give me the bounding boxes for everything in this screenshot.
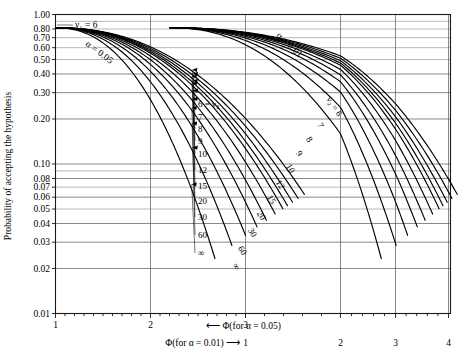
curve-label-alpha005: 15 bbox=[198, 181, 208, 191]
alpha005-curve-v2-9 bbox=[56, 28, 288, 206]
curve-label-alpha001: 30 bbox=[246, 226, 260, 239]
annotation-nu1: ν₁ = 6 bbox=[75, 20, 98, 30]
curve-label-alpha005: 20 bbox=[198, 196, 208, 206]
y-tick-label: 0.50 bbox=[33, 55, 50, 65]
curve-label-alpha005: 6 = ν₂ bbox=[198, 99, 219, 109]
x-axis-caption-alpha005: ⟵ Φ(for α = 0.05) bbox=[206, 321, 281, 332]
x-axis-group: 1231234⟵ Φ(for α = 0.05)Φ(for α = 0.01) … bbox=[53, 314, 451, 350]
y-tick-label: 0.03 bbox=[33, 237, 50, 247]
y-tick-label: 0.06 bbox=[33, 192, 50, 202]
x-tick-alpha001: 1 bbox=[243, 338, 248, 348]
curve-label-alpha005: ∞ bbox=[198, 248, 204, 258]
y-tick-label: 0.30 bbox=[33, 88, 50, 98]
alpha001-curve-v2-7 bbox=[170, 28, 452, 199]
y-tick-label: 0.01 bbox=[33, 309, 50, 319]
alpha005-curve-v2-15 bbox=[56, 28, 267, 220]
y-axis: 1.000.800.700.600.500.400.300.200.100.08… bbox=[33, 10, 55, 319]
x-tick-alpha005: 2 bbox=[148, 320, 153, 330]
y-tick-label: 0.60 bbox=[33, 43, 50, 53]
y-tick-label: 0.10 bbox=[33, 159, 50, 169]
curve-label-alpha005: 12 bbox=[198, 165, 207, 175]
oc-curve-figure: 1.000.800.700.600.500.400.300.200.100.08… bbox=[0, 0, 463, 352]
y-tick-label: 0.70 bbox=[33, 33, 50, 43]
y-axis-title: Probability of accepting the hypothesis bbox=[3, 92, 13, 241]
x-tick-alpha001: 2 bbox=[338, 338, 343, 348]
oc-curve-plot: 1.000.800.700.600.500.400.300.200.100.08… bbox=[0, 0, 463, 352]
x-tick-alpha005: 1 bbox=[53, 320, 58, 330]
x-axis-caption-alpha001: Φ(for α = 0.01) ⟶ bbox=[165, 338, 240, 349]
curve-family-group bbox=[56, 28, 458, 259]
alpha005-curve-v2-10 bbox=[56, 28, 283, 209]
alpha005-curve-v2-inf bbox=[56, 28, 215, 259]
alpha005-curve-v2-12 bbox=[56, 28, 276, 214]
alpha005-curve-v2-8 bbox=[56, 28, 293, 202]
curve-label-alpha001: 9 bbox=[294, 149, 305, 159]
y-tick-label: 0.02 bbox=[33, 264, 50, 274]
curve-label-alpha001: 8 bbox=[304, 135, 315, 145]
alpha001-curve-v2-12 bbox=[170, 28, 433, 214]
annotation-alpha-005: α = 0.05 bbox=[84, 39, 116, 66]
y-tick-label: 0.07 bbox=[33, 182, 50, 192]
curve-label-alpha001: 60 bbox=[236, 244, 250, 257]
curve-label-alpha001: ν₂ = 6 bbox=[325, 95, 345, 119]
curve-label-alpha005: 8 bbox=[198, 124, 203, 134]
curve-label-alpha001: 12 bbox=[274, 178, 287, 191]
curve-label-alpha001: 7 bbox=[315, 121, 326, 131]
curve-label-alpha005: 7 bbox=[198, 112, 203, 122]
y-tick-label: 1.00 bbox=[33, 10, 50, 20]
y-tick-label: 0.40 bbox=[33, 69, 50, 79]
curve-label-alpha005: 30 bbox=[198, 212, 208, 222]
y-tick-label: 0.04 bbox=[33, 219, 50, 229]
x-tick-alpha001: 3 bbox=[393, 338, 398, 348]
alpha001-curve-v2-9 bbox=[170, 28, 443, 206]
curve-label-alpha005: 10 bbox=[198, 149, 208, 159]
curve-label-alpha001: ∞ bbox=[231, 261, 243, 272]
curve-label-alpha001: 15 bbox=[265, 193, 279, 206]
x-tick-alpha001: 4 bbox=[446, 338, 451, 348]
y-tick-label: 0.05 bbox=[33, 204, 50, 214]
curve-label-alpha005: 60 bbox=[198, 230, 208, 240]
y-tick-label: 0.20 bbox=[33, 114, 50, 124]
curve-label-alpha005: 9 bbox=[198, 136, 203, 146]
